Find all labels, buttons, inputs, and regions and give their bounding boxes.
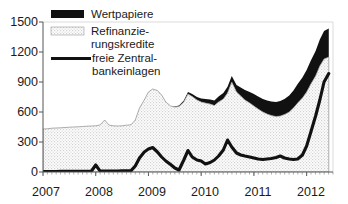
- x-tick-label: 2009: [138, 185, 166, 199]
- x-tick-label: 2012: [297, 185, 325, 199]
- y-tick-label: 300: [17, 135, 38, 149]
- x-tick-label: 2008: [85, 185, 113, 199]
- area-chart: 1500 1200 900 600 300 0 2007 2008 2009 2…: [0, 0, 348, 204]
- y-tick-marks: [39, 22, 43, 172]
- x-tick-label-group: 2007 2008 2009 2010 2011 2012: [32, 185, 325, 199]
- legend-label-wertpapiere: Wertpapiere: [91, 8, 153, 20]
- y-tick-label: 1200: [10, 45, 38, 59]
- y-tick-label: 0: [31, 165, 38, 179]
- legend-swatch-refinanzierungskredite: [51, 27, 84, 35]
- legend-label-freie-zentralbankeinlagen-line2: bankeinlagen: [92, 65, 160, 77]
- legend-label-refinanzierungskredite-line2: rungskredite: [91, 38, 154, 50]
- legend-swatch-freie-zentralbankeinlagen: [51, 57, 91, 60]
- y-tick-label: 600: [17, 105, 38, 119]
- legend-label-freie-zentralbankeinlagen-line1: freie Zentral-: [92, 52, 157, 64]
- y-tick-label: 1500: [10, 15, 38, 29]
- y-tick-label-group: 1500 1200 900 600 300 0: [10, 15, 38, 179]
- legend-swatch-wertpapiere: [51, 10, 84, 18]
- chart-container: 1500 1200 900 600 300 0 2007 2008 2009 2…: [0, 0, 348, 204]
- y-tick-label: 900: [17, 75, 38, 89]
- x-tick-label: 2007: [32, 185, 60, 199]
- x-tick-label: 2011: [245, 185, 272, 199]
- x-tick-label: 2010: [191, 185, 219, 199]
- legend-label-refinanzierungskredite-line1: Refinanzie-: [91, 25, 149, 37]
